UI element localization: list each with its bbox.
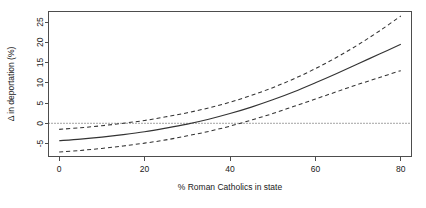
x-axis-title: % Roman Catholics in state [178,182,283,192]
y-tick-label: 5 [36,100,46,105]
data-series-group [59,16,401,152]
series-lower-95-confidence-band [59,71,401,152]
y-tick-label: 10 [36,78,46,88]
y-axis-title: Δ in deportation (%) [6,47,16,122]
x-tick-label: 40 [225,164,235,174]
y-tick-label: 20 [36,37,46,47]
chart-canvas: 020406080 -50510152025 % Roman Catholics… [0,0,426,208]
x-tick-label: 20 [140,164,150,174]
y-tick-label: 15 [36,58,46,68]
y-tick-label: 0 [36,121,46,126]
x-tick-label: 0 [57,164,62,174]
y-tick-label: 25 [36,17,46,27]
x-tick-label: 60 [311,164,321,174]
deportation-vs-catholics-chart: 020406080 -50510152025 % Roman Catholics… [0,0,426,208]
plot-box-border [49,12,412,157]
y-axis-ticks: -50510152025 [36,17,49,147]
x-axis-ticks: 020406080 [57,157,406,174]
plot-frame [49,12,412,157]
y-tick-label: -5 [36,139,46,147]
series-fitted-effect [59,44,401,140]
series-upper-95-confidence-band [59,16,401,129]
x-tick-label: 80 [396,164,406,174]
